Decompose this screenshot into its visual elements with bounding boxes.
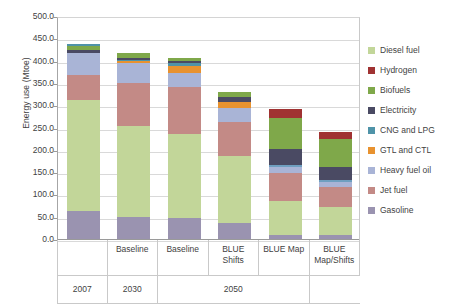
bar-segment <box>67 100 100 211</box>
category-label: BLUEMap/Shifts <box>310 240 361 275</box>
legend-swatch-icon <box>368 187 375 194</box>
legend-label: CNG and LPG <box>380 125 435 135</box>
bar-segment <box>319 187 352 207</box>
bar-segment <box>269 173 302 201</box>
y-axis-tick-label: 100.0 <box>4 189 54 199</box>
legend-label: Heavy fuel oil <box>380 165 431 175</box>
category-label: BLUE Map <box>259 240 310 275</box>
legend-swatch-icon <box>368 47 375 54</box>
bar-segment <box>269 201 302 235</box>
gridline <box>58 219 359 220</box>
bar-segment <box>168 218 201 240</box>
category-label-line1: BLUE <box>323 244 345 254</box>
y-axis-tick-label: 50.0 <box>4 212 54 222</box>
legend-item: Hydrogen <box>368 60 456 80</box>
gridline <box>58 107 359 108</box>
bar-segment <box>168 66 201 73</box>
legend-swatch-icon <box>368 167 375 174</box>
bar <box>218 92 251 240</box>
y-axis-tick-label: 150.0 <box>4 167 54 177</box>
category-label-line2: Shifts <box>223 255 244 265</box>
legend-label: GTL and CTL <box>380 145 431 155</box>
legend-item: Gasoline <box>368 200 456 220</box>
legend-item: CNG and LPG <box>368 120 456 140</box>
gridline <box>58 174 359 175</box>
category-labels-row: BaselineBaselineBLUEShiftsBLUE MapBLUEMa… <box>57 240 360 276</box>
bar-segment <box>218 108 251 123</box>
bar-segment <box>67 53 100 75</box>
legend-item: Biofuels <box>368 80 456 100</box>
year-group-label: 2030 <box>108 276 159 303</box>
legend-label: Biofuels <box>380 85 410 95</box>
legend-label: Gasoline <box>380 205 414 215</box>
year-group-labels-row: 200720302050 <box>57 276 360 304</box>
legend-swatch-icon <box>368 147 375 154</box>
year-group-label: 2007 <box>57 276 108 303</box>
bar <box>67 44 100 240</box>
legend-label: Hydrogen <box>380 65 417 75</box>
category-label-line1: BLUE Map <box>263 244 304 254</box>
y-axis-tick-label: 200.0 <box>4 145 54 155</box>
category-label-line2: Map/Shifts <box>314 255 354 265</box>
legend-item: Jet fuel <box>368 180 456 200</box>
y-axis-tick-label: 250.0 <box>4 123 54 133</box>
y-axis-tick-label: 500.0 <box>4 11 54 21</box>
bar-segment <box>168 73 201 88</box>
gridline <box>58 85 359 86</box>
y-axis-tick-label: 350.0 <box>4 78 54 88</box>
legend-item: Diesel fuel <box>368 40 456 60</box>
y-axis-tick-label: 0.0 <box>4 234 54 244</box>
year-group-label: 2050 <box>158 276 310 303</box>
bar-segment <box>67 75 100 100</box>
bar-segment <box>218 223 251 240</box>
bar-segment <box>168 134 201 217</box>
legend: Diesel fuelHydrogenBiofuelsElectricityCN… <box>368 40 456 220</box>
bar-segment <box>319 167 352 179</box>
category-label <box>57 240 108 275</box>
bar-segment <box>269 109 302 118</box>
bar-segment <box>117 126 150 217</box>
plot-area <box>57 17 360 240</box>
category-axis: BaselineBaselineBLUEShiftsBLUE MapBLUEMa… <box>57 240 360 308</box>
legend-swatch-icon <box>368 107 375 114</box>
bar <box>269 109 302 240</box>
bar-segment <box>67 211 100 240</box>
legend-item: Heavy fuel oil <box>368 160 456 180</box>
bar-segment <box>319 139 352 167</box>
y-axis-tick-label: 400.0 <box>4 56 54 66</box>
gridline <box>58 152 359 153</box>
legend-swatch-icon <box>368 127 375 134</box>
category-label-line1: Baseline <box>116 244 149 254</box>
gridline <box>58 130 359 131</box>
bar-segment <box>218 122 251 155</box>
legend-label: Electricity <box>380 105 416 115</box>
gridline <box>58 63 359 64</box>
y-axis-tick-label: 300.0 <box>4 100 54 110</box>
bar <box>319 132 352 240</box>
legend-item: Electricity <box>368 100 456 120</box>
bar <box>117 53 150 240</box>
bar-segment <box>117 63 150 83</box>
category-label: BLUEShifts <box>209 240 260 275</box>
legend-item: GTL and CTL <box>368 140 456 160</box>
gridline <box>58 196 359 197</box>
legend-swatch-icon <box>368 67 375 74</box>
category-label-line1: Baseline <box>166 244 199 254</box>
legend-label: Diesel fuel <box>380 45 420 55</box>
legend-label: Jet fuel <box>380 185 407 195</box>
bar-segment <box>269 118 302 149</box>
category-label: Baseline <box>158 240 209 275</box>
bar-segment <box>319 207 352 235</box>
bar-segment <box>218 156 251 223</box>
legend-swatch-icon <box>368 207 375 214</box>
bar-segment <box>117 83 150 126</box>
legend-swatch-icon <box>368 87 375 94</box>
category-label-line1: BLUE <box>222 244 244 254</box>
bar-segment <box>319 132 352 140</box>
bar-segment <box>117 217 150 240</box>
y-axis-title: Energy use (Mtoe) <box>21 23 31 163</box>
bar-segment <box>269 149 302 165</box>
y-axis-tick-label: 450.0 <box>4 33 54 43</box>
bar-segment <box>168 87 201 134</box>
category-label: Baseline <box>108 240 159 275</box>
